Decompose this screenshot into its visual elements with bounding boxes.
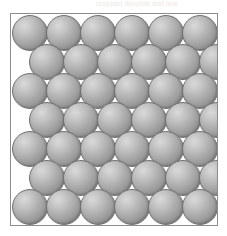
sphere: [80, 189, 116, 225]
sphere: [182, 189, 218, 225]
sphere: [148, 189, 184, 225]
sphere: [12, 189, 48, 225]
figure-root: cropped illegible text line: [0, 0, 227, 236]
packing-frame: [10, 13, 218, 226]
sphere-layer: [11, 14, 217, 225]
caption-fragment: cropped illegible text line: [96, 0, 227, 7]
sphere: [46, 189, 82, 225]
sphere: [114, 189, 150, 225]
